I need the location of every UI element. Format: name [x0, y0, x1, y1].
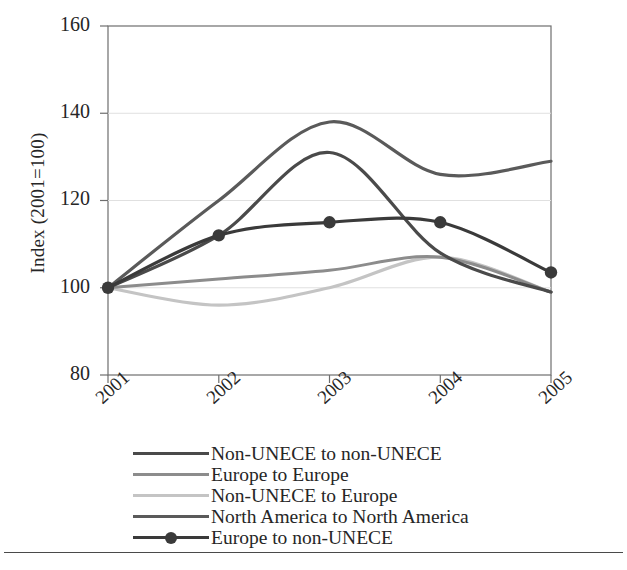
legend-swatch [133, 527, 209, 548]
y-tick-label-100: 100 [44, 275, 90, 298]
legend-swatch [133, 464, 209, 485]
chart-plot-area: Index (2001=100) 160 140 120 100 80 2001… [0, 0, 627, 440]
footer-rule [4, 552, 623, 553]
legend-swatch [133, 506, 209, 527]
series-marker [102, 282, 114, 294]
legend-label: Europe to non-UNECE [209, 527, 393, 548]
y-tick-label-160: 160 [44, 13, 90, 36]
legend-item[interactable]: Europe to non-UNECE [133, 527, 553, 548]
legend-label: North America to North America [209, 506, 469, 527]
legend-item[interactable]: Europe to Europe [133, 464, 553, 485]
legend-item[interactable]: Non-UNECE to Europe [133, 485, 553, 506]
series-marker [213, 229, 225, 241]
chart-legend: Non-UNECE to non-UNECEEurope to EuropeNo… [133, 443, 553, 548]
legend-label: Europe to Europe [209, 464, 349, 485]
series-marker [323, 216, 335, 228]
legend-swatch [133, 485, 209, 506]
legend-swatch [133, 443, 209, 464]
chart-canvas [0, 0, 627, 440]
series-marker [545, 266, 557, 278]
y-tick-label-140: 140 [44, 100, 90, 123]
legend-label: Non-UNECE to non-UNECE [209, 443, 442, 464]
y-tick-label-120: 120 [44, 187, 90, 210]
figure-line-chart: Index (2001=100) 160 140 120 100 80 2001… [0, 0, 627, 570]
series-marker [434, 216, 446, 228]
legend-item[interactable]: North America to North America [133, 506, 553, 527]
legend-item[interactable]: Non-UNECE to non-UNECE [133, 443, 553, 464]
y-axis-ticks [100, 26, 108, 375]
y-tick-label-80: 80 [44, 362, 90, 385]
legend-label: Non-UNECE to Europe [209, 485, 397, 506]
legend-marker-dot [165, 532, 177, 544]
